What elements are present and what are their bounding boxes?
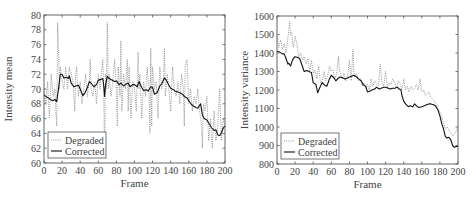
y-tick-label: 80 — [31, 10, 41, 21]
y-tick-label: 74 — [31, 54, 41, 65]
y-axis-title: Intensity mean — [2, 56, 14, 122]
y-tick-label: 60 — [31, 158, 41, 169]
x-axis-title: Frame — [120, 177, 148, 189]
x-tick-label: 120 — [378, 166, 393, 177]
x-tick-label: 60 — [93, 165, 103, 176]
y-tick-label: 1200 — [254, 85, 274, 96]
y-tick-label: 62 — [31, 143, 41, 154]
legend: DegradedCorrected — [281, 133, 339, 159]
legend-label-corrected: Corrected — [65, 146, 104, 157]
x-tick-label: 0 — [275, 166, 280, 177]
x-tick-label: 20 — [290, 166, 300, 177]
intensity-mean-plot: 0204060801001201401601802006062646668707… — [0, 0, 238, 197]
y-tick-label: 1600 — [254, 11, 274, 22]
intensity-variance-plot: 0204060801001201401601802008009001000110… — [238, 0, 476, 197]
legend-label-corrected: Corrected — [298, 147, 337, 158]
legend-label-degraded: Degraded — [65, 135, 104, 146]
x-tick-label: 100 — [360, 166, 375, 177]
y-tick-label: 1100 — [254, 103, 274, 114]
y-tick-label: 1300 — [254, 66, 274, 77]
x-tick-label: 40 — [308, 166, 318, 177]
y-tick-label: 66 — [31, 113, 41, 124]
x-axis-title: Frame — [353, 178, 381, 190]
x-tick-label: 180 — [432, 166, 447, 177]
x-tick-label: 60 — [326, 166, 336, 177]
x-tick-label: 80 — [111, 165, 121, 176]
x-tick-label: 80 — [344, 166, 354, 177]
x-tick-label: 140 — [163, 165, 178, 176]
y-tick-label: 800 — [259, 159, 274, 170]
y-tick-label: 64 — [31, 128, 41, 139]
y-tick-label: 72 — [31, 69, 41, 80]
y-tick-label: 68 — [31, 98, 41, 109]
y-axis-title: Intensity variance — [238, 51, 250, 130]
x-tick-label: 200 — [451, 166, 466, 177]
legend-label-degraded: Degraded — [298, 136, 337, 147]
x-tick-label: 180 — [199, 165, 214, 176]
x-tick-label: 160 — [414, 166, 429, 177]
x-tick-label: 160 — [181, 165, 196, 176]
corrected-series-line — [44, 74, 225, 135]
x-tick-label: 120 — [145, 165, 160, 176]
x-tick-label: 100 — [127, 165, 142, 176]
x-tick-label: 140 — [396, 166, 411, 177]
x-tick-label: 200 — [218, 165, 233, 176]
x-tick-label: 40 — [75, 165, 85, 176]
intensity-mean-chart: 0204060801001201401601802006062646668707… — [0, 0, 238, 197]
x-tick-label: 0 — [42, 165, 47, 176]
y-tick-label: 1400 — [254, 48, 274, 59]
y-tick-label: 900 — [259, 140, 274, 151]
y-tick-label: 70 — [31, 84, 41, 95]
y-tick-label: 1000 — [254, 122, 274, 133]
legend: DegradedCorrected — [48, 132, 106, 158]
x-tick-label: 20 — [57, 165, 67, 176]
degraded-series-line — [277, 22, 458, 137]
intensity-variance-chart: 0204060801001201401601802008009001000110… — [238, 0, 476, 197]
y-tick-label: 1500 — [254, 29, 274, 40]
y-tick-label: 76 — [31, 39, 41, 50]
y-tick-label: 78 — [31, 24, 41, 35]
